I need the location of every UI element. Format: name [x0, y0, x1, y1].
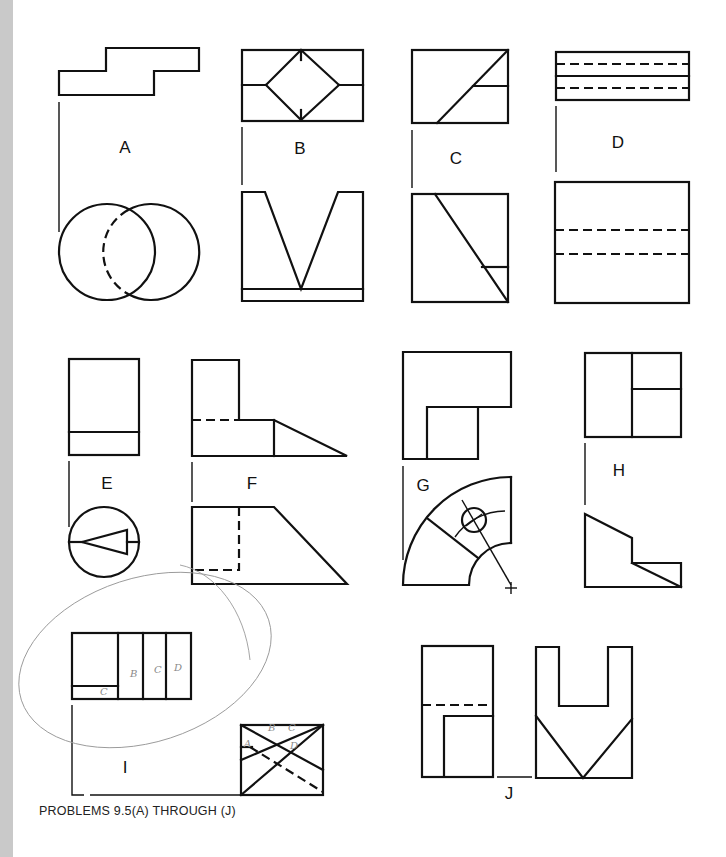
label-h: H — [613, 461, 625, 481]
problem-g-drawing — [403, 352, 517, 594]
problem-b-drawing — [242, 50, 363, 301]
handwritten-note: C — [288, 722, 296, 733]
handwritten-note: C — [100, 686, 108, 697]
label-g: G — [416, 476, 429, 496]
label-a: A — [119, 138, 130, 158]
orthographic-drawings — [0, 0, 726, 857]
handwritten-note: D — [174, 662, 182, 673]
label-d: D — [612, 133, 624, 153]
handwritten-note: D — [290, 740, 298, 751]
problem-f-drawing — [192, 360, 347, 584]
handwritten-note: C — [154, 664, 162, 675]
problem-j-drawing — [422, 646, 632, 778]
label-f: F — [247, 474, 257, 494]
problem-e-drawing — [69, 359, 139, 577]
problem-a-drawing — [59, 48, 199, 300]
label-e: E — [101, 474, 112, 494]
problem-c-drawing — [412, 50, 508, 302]
label-b: B — [294, 139, 305, 159]
problem-d-drawing — [555, 52, 689, 303]
figure-caption: PROBLEMS 9.5(A) THROUGH (J) — [39, 804, 236, 818]
problem-h-drawing — [585, 353, 681, 587]
problem-i-drawing — [72, 633, 323, 795]
handwritten-note: B — [268, 722, 275, 733]
label-c: C — [450, 149, 462, 169]
label-i: I — [123, 758, 128, 778]
label-j: J — [505, 784, 514, 804]
handwritten-note: B — [130, 668, 137, 679]
handwritten-note: A — [244, 738, 251, 749]
